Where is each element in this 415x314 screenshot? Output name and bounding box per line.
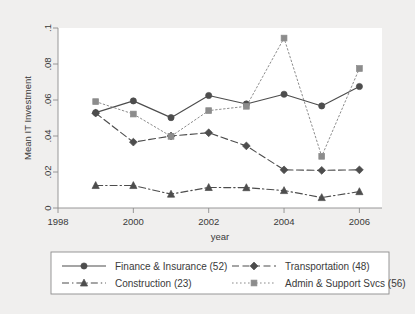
x-tick-label: 2000 [123, 216, 144, 227]
data-point-marker [243, 103, 249, 109]
y-tick-label: .04 [42, 129, 53, 142]
chart-figure: 0.02.04.06.08.1 19982000200220042006 Mea… [0, 0, 415, 314]
data-point-marker [206, 108, 212, 114]
legend-label: Finance & Insurance (52) [115, 261, 227, 272]
data-point-marker [130, 111, 136, 117]
legend-label: Construction (23) [115, 278, 192, 289]
data-point-marker [251, 280, 257, 286]
data-point-marker [319, 153, 325, 159]
plot-area-background [58, 28, 382, 208]
legend-label: Transportation (48) [285, 261, 370, 272]
data-point-marker [81, 263, 87, 269]
x-tick-label: 2002 [198, 216, 219, 227]
mean-it-investment-line-chart: 0.02.04.06.08.1 19982000200220042006 Mea… [0, 0, 415, 314]
data-point-marker [356, 83, 362, 89]
data-point-marker [93, 99, 99, 105]
y-tick-label: .02 [42, 165, 53, 178]
legend-label: Admin & Support Svcs (56) [285, 278, 406, 289]
y-axis-title: Mean IT Investment [22, 76, 33, 160]
x-tick-label: 2006 [349, 216, 370, 227]
data-point-marker [356, 66, 362, 72]
x-tick-label: 1998 [47, 216, 68, 227]
data-point-marker [281, 91, 287, 97]
x-tick-label: 2004 [273, 216, 294, 227]
y-tick-label: .06 [42, 93, 53, 106]
x-axis-title: year [211, 231, 229, 242]
data-point-marker [206, 92, 212, 98]
data-point-marker [319, 103, 325, 109]
data-point-marker [130, 98, 136, 104]
y-tick-label: .1 [42, 24, 53, 32]
y-tick-label: .08 [42, 57, 53, 70]
data-point-marker [168, 133, 174, 139]
data-point-marker [168, 115, 174, 121]
y-tick-label: 0 [42, 205, 53, 210]
data-point-marker [281, 35, 287, 41]
